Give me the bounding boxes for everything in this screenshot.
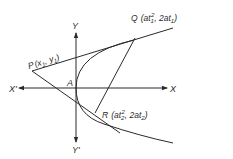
vertex-label-a: A [66,78,73,88]
point-p-label: P(x1, y1) [27,52,61,72]
svg-text:R(at22, 2at2): R(at22, 2at2) [102,109,148,121]
y-prime-axis-label: Y' [72,145,80,155]
chord-qr [95,38,135,113]
svg-text:Q(at12, 2at1): Q(at12, 2at1) [131,12,177,24]
point-r-label: R(at22, 2at2) [102,109,148,121]
point-q-label: Q(at12, 2at1) [131,12,177,24]
parabola-diagram: Y Y' X X' A P(x1, y1) Q(at12, 2at1) R(at… [0,0,233,159]
x-prime-axis-label: X' [8,84,17,94]
tangent-line-pq [32,28,173,71]
x-axis-label: X [169,84,177,94]
svg-text:P(x1, y1): P(x1, y1) [27,52,61,72]
parabola-curve [76,40,173,143]
y-axis-label: Y [72,21,79,31]
